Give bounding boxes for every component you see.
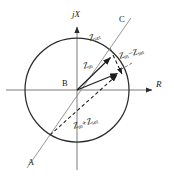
axis-label-r: R xyxy=(156,80,162,89)
point-label-a-text: A xyxy=(28,157,34,167)
point-label-b: B xyxy=(62,79,68,88)
vector-label-zset-sub: set xyxy=(93,34,101,42)
axis-label-jx-text: jX xyxy=(72,9,80,19)
point-label-c-text: C xyxy=(119,14,125,24)
vector-zm xyxy=(77,74,118,91)
point-label-c: C xyxy=(119,15,125,24)
vector-label-zdiff-sub2: set xyxy=(137,49,145,56)
figure-canvas xyxy=(0,0,174,178)
point-label-a: A xyxy=(28,158,34,167)
axis-label-r-text: R xyxy=(156,79,162,89)
line-AC xyxy=(27,18,131,168)
impedance-phasor-figure: jX R B C A Zset Zm Zm−Zset Zm+Zset xyxy=(0,0,174,178)
vector-label-zsum-sub2: set xyxy=(91,118,99,126)
point-label-b-text: B xyxy=(62,78,68,88)
axis-label-jx: jX xyxy=(72,10,80,19)
